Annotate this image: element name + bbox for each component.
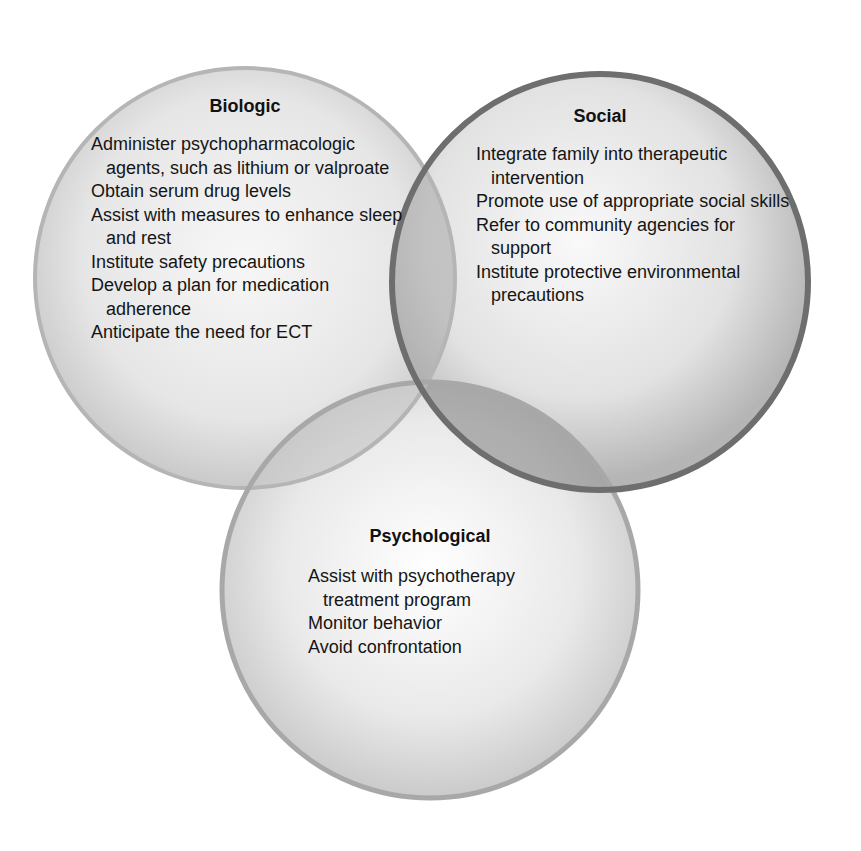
list-item: Assist with measures to enhance sleep an… bbox=[91, 204, 411, 251]
list-item: Promote use of appropriate social skills bbox=[476, 190, 811, 214]
list-item: Refer to community agencies for support bbox=[476, 214, 796, 261]
list-item: Monitor behavior bbox=[308, 612, 568, 636]
list-item: Develop a plan for medication adherence bbox=[91, 274, 366, 321]
list-item: Obtain serum drug levels bbox=[91, 180, 411, 204]
list-item: Institute protective environmental preca… bbox=[476, 261, 811, 308]
social-title: Social bbox=[530, 106, 670, 127]
psychological-list: Assist with psychotherapy treatment prog… bbox=[308, 565, 568, 659]
list-item: Institute safety precautions bbox=[91, 251, 411, 275]
list-item: Administer psychopharmacologic agents, s… bbox=[91, 133, 406, 180]
psychological-title: Psychological bbox=[330, 526, 530, 547]
list-item: Integrate family into therapeutic interv… bbox=[476, 143, 761, 190]
social-list: Integrate family into therapeutic interv… bbox=[476, 143, 806, 308]
biologic-list: Administer psychopharmacologic agents, s… bbox=[91, 133, 411, 345]
list-item: Anticipate the need for ECT bbox=[91, 321, 316, 345]
list-item: Avoid confrontation bbox=[308, 636, 568, 660]
biologic-title: Biologic bbox=[145, 96, 345, 117]
venn-diagram bbox=[0, 0, 861, 851]
list-item: Assist with psychotherapy treatment prog… bbox=[308, 565, 568, 612]
